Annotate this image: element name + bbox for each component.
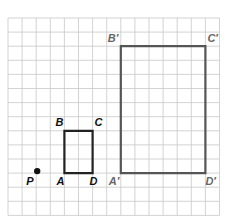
dilation-diagram: PABCDA′B′C′D′ xyxy=(0,0,235,224)
label-b: B xyxy=(55,116,63,128)
label-c-prime: C′ xyxy=(207,32,219,44)
label-p: P xyxy=(26,175,34,187)
label-d-prime: D′ xyxy=(205,175,217,187)
label-d: D xyxy=(90,175,98,187)
label-b-prime: B′ xyxy=(108,32,120,44)
label-a-prime: A′ xyxy=(108,175,121,187)
label-c: C xyxy=(95,116,104,128)
center-point-p xyxy=(34,168,40,174)
label-a: A xyxy=(55,175,64,187)
